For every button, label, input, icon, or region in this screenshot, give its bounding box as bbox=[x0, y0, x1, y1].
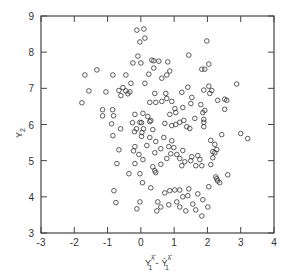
data-point bbox=[181, 195, 186, 200]
data-point bbox=[152, 66, 157, 71]
data-point bbox=[234, 82, 239, 87]
data-point bbox=[111, 114, 116, 119]
data-point bbox=[175, 200, 180, 205]
data-point bbox=[199, 102, 204, 107]
data-point bbox=[141, 157, 146, 162]
data-point bbox=[200, 163, 205, 168]
data-point bbox=[168, 69, 173, 74]
data-point bbox=[143, 81, 148, 86]
data-point bbox=[83, 73, 88, 78]
data-point bbox=[151, 127, 156, 132]
data-point bbox=[162, 135, 167, 140]
data-point bbox=[175, 152, 180, 157]
data-point bbox=[170, 139, 175, 144]
x-axis-label-sub: 1 bbox=[149, 264, 153, 271]
data-point bbox=[124, 73, 129, 78]
data-point bbox=[129, 81, 134, 86]
data-point bbox=[127, 171, 132, 176]
x-axis-label-minus: - bbox=[155, 258, 158, 268]
x-tick-label: 2 bbox=[205, 237, 211, 248]
data-point bbox=[130, 120, 135, 125]
data-point bbox=[194, 208, 199, 213]
data-point bbox=[202, 124, 207, 129]
data-point bbox=[173, 188, 178, 193]
data-point bbox=[138, 171, 143, 176]
x-tick-label: -2 bbox=[70, 237, 79, 248]
data-point bbox=[104, 90, 109, 95]
data-point bbox=[142, 27, 147, 32]
y-tick-label: 8 bbox=[28, 47, 34, 58]
data-point bbox=[187, 187, 192, 192]
x-axis-label: Yλ̂1-Ȳλ̂1 bbox=[145, 254, 173, 271]
data-point bbox=[184, 209, 189, 214]
data-point bbox=[159, 205, 164, 210]
data-point bbox=[153, 150, 158, 155]
data-point bbox=[141, 111, 146, 116]
data-point bbox=[178, 205, 183, 210]
data-point bbox=[202, 88, 207, 93]
data-point bbox=[137, 152, 142, 157]
data-point bbox=[209, 162, 214, 167]
data-point bbox=[200, 214, 205, 219]
data-point bbox=[163, 121, 168, 126]
data-point bbox=[159, 162, 164, 167]
data-point bbox=[143, 36, 148, 41]
data-point bbox=[138, 200, 143, 205]
data-point bbox=[133, 161, 138, 166]
data-point bbox=[168, 112, 173, 117]
data-point bbox=[206, 205, 211, 210]
data-point bbox=[148, 135, 153, 140]
data-point bbox=[180, 90, 185, 95]
data-point bbox=[172, 145, 177, 150]
x-tick-label: -1 bbox=[103, 237, 112, 248]
data-point bbox=[111, 133, 116, 138]
x-tick-label: -3 bbox=[37, 237, 46, 248]
data-point bbox=[181, 148, 186, 153]
data-point bbox=[165, 96, 170, 101]
y-axis-label: Y2 bbox=[14, 128, 26, 138]
x-tick-label: 3 bbox=[238, 237, 244, 248]
data-point bbox=[111, 73, 116, 78]
data-point bbox=[165, 73, 170, 78]
data-point bbox=[202, 117, 207, 122]
data-point bbox=[135, 207, 140, 212]
data-point bbox=[205, 39, 210, 44]
data-point bbox=[110, 107, 115, 112]
data-point bbox=[119, 93, 124, 98]
data-points bbox=[80, 27, 250, 219]
data-point bbox=[112, 188, 117, 193]
data-point bbox=[149, 186, 154, 191]
data-point bbox=[190, 95, 195, 100]
data-point bbox=[153, 91, 158, 96]
data-point bbox=[238, 131, 243, 136]
data-point bbox=[136, 54, 141, 59]
data-point bbox=[114, 200, 119, 205]
data-point bbox=[156, 200, 161, 205]
data-point bbox=[170, 99, 175, 104]
data-point bbox=[186, 85, 191, 90]
data-point bbox=[139, 61, 144, 66]
data-point bbox=[187, 53, 192, 58]
data-point bbox=[207, 62, 212, 67]
data-point bbox=[115, 161, 120, 166]
data-point bbox=[194, 163, 199, 168]
data-point bbox=[135, 28, 140, 33]
data-point bbox=[166, 60, 171, 65]
data-point bbox=[95, 68, 100, 73]
data-point bbox=[87, 89, 92, 94]
data-point bbox=[186, 193, 191, 198]
data-point bbox=[169, 152, 174, 157]
data-point bbox=[167, 203, 172, 208]
data-point bbox=[207, 84, 212, 89]
data-point bbox=[215, 98, 220, 103]
data-point bbox=[181, 105, 186, 110]
data-point bbox=[157, 59, 162, 64]
data-point bbox=[163, 191, 168, 196]
data-point bbox=[160, 76, 165, 81]
y-tick-label: 7 bbox=[28, 83, 34, 94]
data-point bbox=[138, 40, 143, 45]
data-point bbox=[245, 136, 250, 141]
y-tick-label: 4 bbox=[28, 192, 34, 203]
y-axis-label-sub: 2 bbox=[19, 128, 26, 132]
data-point bbox=[133, 144, 138, 149]
